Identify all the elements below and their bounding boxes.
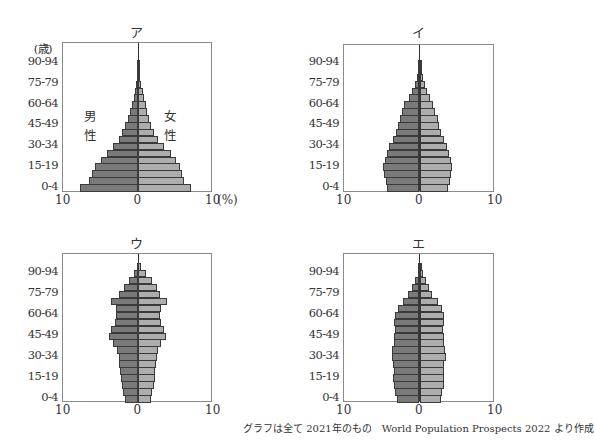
bar-male [125,395,139,403]
bar-female [138,88,143,96]
bar-male [398,305,420,313]
bar-male [124,284,138,292]
bar-male [119,353,139,361]
bar-female [420,136,445,144]
bar-female [420,108,436,116]
bar-male [130,108,138,116]
bar-female [138,339,161,347]
bar-male [119,360,138,368]
bar-male [113,143,139,151]
bar-female [420,81,425,89]
bar-female [420,74,423,82]
bar-female [420,115,438,123]
bar-male [412,284,420,292]
y-tick-label: 15-19 [14,158,58,172]
bar-female [420,129,442,137]
y-tick-label: 0-4 [295,390,339,404]
bar-female [420,388,443,396]
bar-female [420,143,447,151]
bar-female [420,312,445,320]
legend-female: 女性 [164,106,177,144]
bar-female [420,101,434,109]
x-tick-label: 10 [487,193,502,207]
bar-female [138,381,154,389]
y-tick-label: 60-64 [14,96,58,110]
y-tick-label: 75-79 [295,285,339,299]
bar-male [393,136,419,144]
panel-title: イ [398,22,438,41]
bar-male [398,122,419,130]
bar-female [138,157,176,165]
bar-male [387,184,419,192]
y-tick-label: 45-49 [14,327,58,341]
x-tick-label: 10 [336,193,351,207]
y-tick-label: 0-4 [14,390,58,404]
panel-title: ア [116,22,156,41]
bar-male [400,115,420,123]
plot-frame [343,44,494,192]
bar-male [403,298,420,306]
bar-female [138,81,141,89]
bar-male [122,129,138,137]
bar-female [420,122,440,130]
x-tick-label: 10 [205,193,220,207]
bar-female [420,263,422,271]
bar-female [420,163,452,171]
y-tick-label: 90-94 [14,264,58,278]
bar-female [420,395,441,403]
bar-female [138,305,161,313]
bar-female [138,360,156,368]
bar-male [386,177,420,185]
bar-female [138,184,191,192]
bar-female [420,177,451,185]
bar-male [395,326,420,334]
bar-male [392,353,420,361]
x-tick-label: 10 [487,403,502,417]
y-tick-label: 45-49 [295,116,339,130]
bar-female [420,381,444,389]
bar-female [138,284,157,292]
bar-female [138,319,161,327]
bar-male [128,115,139,123]
bar-female [138,122,151,130]
bar-male [129,277,138,285]
bar-female [420,333,444,341]
x-tick-label: 10 [336,403,351,417]
bar-female [138,367,155,375]
y-tick-label: 60-64 [295,306,339,320]
bar-male [396,129,419,137]
y-tick-label: 90-94 [295,264,339,278]
y-tick-label: 30-34 [14,348,58,362]
bar-female [138,163,180,171]
bar-female [420,367,444,375]
bar-male [111,298,138,306]
bar-male [80,184,138,192]
bar-male [92,170,139,178]
bar-female [420,360,445,368]
bar-female [138,60,140,68]
bar-female [138,388,152,396]
y-tick-label: 30-34 [295,137,339,151]
bar-female [138,67,140,75]
bar-female [420,88,428,96]
bar-male [384,170,419,178]
x-tick-label: 0 [415,403,423,417]
bar-male [394,333,420,341]
bar-male [121,374,138,382]
y-tick-label: 15-19 [295,369,339,383]
bar-male [116,305,139,313]
y-tick-label: 30-34 [295,348,339,362]
bar-male [123,388,138,396]
bar-male [385,157,420,165]
bar-female [138,94,144,102]
bar-female [420,157,452,165]
bar-female [420,94,431,102]
x-tick-label: 10 [55,403,70,417]
bar-female [138,333,166,341]
panel-title: エ [398,233,438,252]
bar-male [393,360,419,368]
bar-male [122,381,139,389]
y-tick-label: 75-79 [295,75,339,89]
x-tick-label: 0 [415,193,423,207]
y-tick-label: 90-94 [295,54,339,68]
